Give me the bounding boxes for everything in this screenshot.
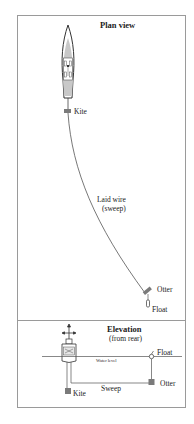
float-elevation-icon [149,354,153,358]
kite-plan-icon [64,109,71,113]
wire-label-line2: (sweep) [102,204,126,213]
sweep-label: Sweep [101,384,121,393]
kite-elevation-label: Kite [73,389,87,398]
float-plan-label: Float [152,305,168,314]
float-elevation-label: Float [157,348,173,357]
otter-elevation-label: Otter [160,379,176,388]
elevation-title: Elevation [107,324,142,334]
otter-plan-label: Otter [157,285,173,294]
kite-plan-label: Kite [74,107,88,116]
kite-elevation-icon [65,388,71,394]
float-plan-icon [147,300,150,307]
plan-view-title: Plan view [100,20,136,30]
otter-elevation-icon [149,379,155,385]
elevation-subtitle: (from rear) [109,334,143,343]
wire-label-line1: Laid wire [97,195,127,204]
sweep-diagram: Plan view Kite Laid wire (sweep) Otter F… [0,0,194,424]
water-level-label: Water level [96,358,117,363]
